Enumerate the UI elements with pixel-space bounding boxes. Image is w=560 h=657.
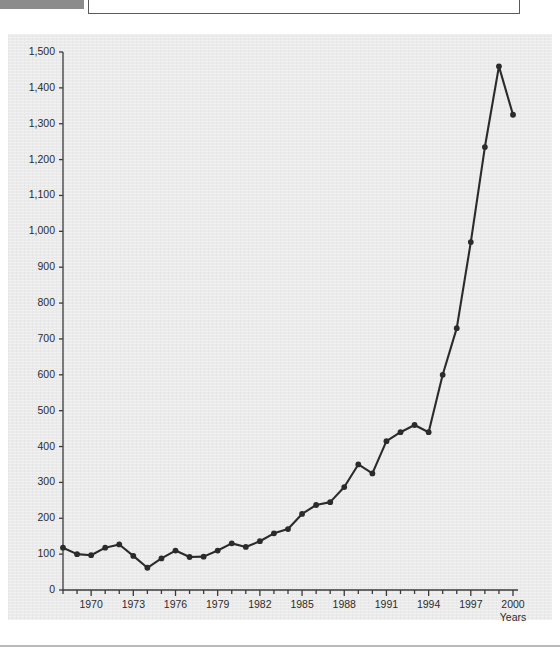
y-tick-label: 900 xyxy=(9,261,55,272)
y-tick-label: 100 xyxy=(9,548,55,559)
line-chart: 01002003004005006007008009001,0001,1001,… xyxy=(8,34,552,620)
y-tick-label: 1,500 xyxy=(9,46,55,57)
x-tick-label: 1976 xyxy=(154,599,198,610)
y-tick-label: 300 xyxy=(9,476,55,487)
y-tick-label: 1,100 xyxy=(9,189,55,200)
x-tick-label: 1985 xyxy=(280,599,324,610)
x-tick-label: 1994 xyxy=(407,599,451,610)
y-tick-label: 1,200 xyxy=(9,154,55,165)
x-tick-label: 1970 xyxy=(69,599,113,610)
y-tick-label: 800 xyxy=(9,297,55,308)
x-tick-label: 1973 xyxy=(111,599,155,610)
x-tick-label: 2000 xyxy=(491,599,535,610)
document-chrome xyxy=(0,0,560,20)
x-axis-ticks xyxy=(63,590,513,596)
y-tick-label: 1,300 xyxy=(9,118,55,129)
axis-lines xyxy=(63,52,518,590)
document-tab[interactable] xyxy=(0,0,84,9)
chart-panel: 01002003004005006007008009001,0001,1001,… xyxy=(8,34,552,620)
y-tick-label: 400 xyxy=(9,441,55,452)
x-tick-label: 1991 xyxy=(364,599,408,610)
y-tick-label: 0 xyxy=(9,584,55,595)
y-tick-label: 1,400 xyxy=(9,82,55,93)
y-tick-label: 200 xyxy=(9,512,55,523)
y-tick-label: 500 xyxy=(9,405,55,416)
data-line xyxy=(63,66,513,567)
y-tick-label: 700 xyxy=(9,333,55,344)
x-axis-title: Years xyxy=(491,612,535,623)
x-tick-label: 1982 xyxy=(238,599,282,610)
screenshot-page: 01002003004005006007008009001,0001,1001,… xyxy=(0,0,560,657)
data-points xyxy=(60,63,516,570)
page-bottom-rule xyxy=(0,645,560,647)
y-tick-label: 600 xyxy=(9,369,55,380)
y-tick-label: 1,000 xyxy=(9,225,55,236)
document-header-box xyxy=(88,0,520,14)
x-tick-label: 1988 xyxy=(322,599,366,610)
x-tick-label: 1997 xyxy=(449,599,493,610)
x-tick-label: 1979 xyxy=(196,599,240,610)
chart-canvas xyxy=(8,34,552,620)
